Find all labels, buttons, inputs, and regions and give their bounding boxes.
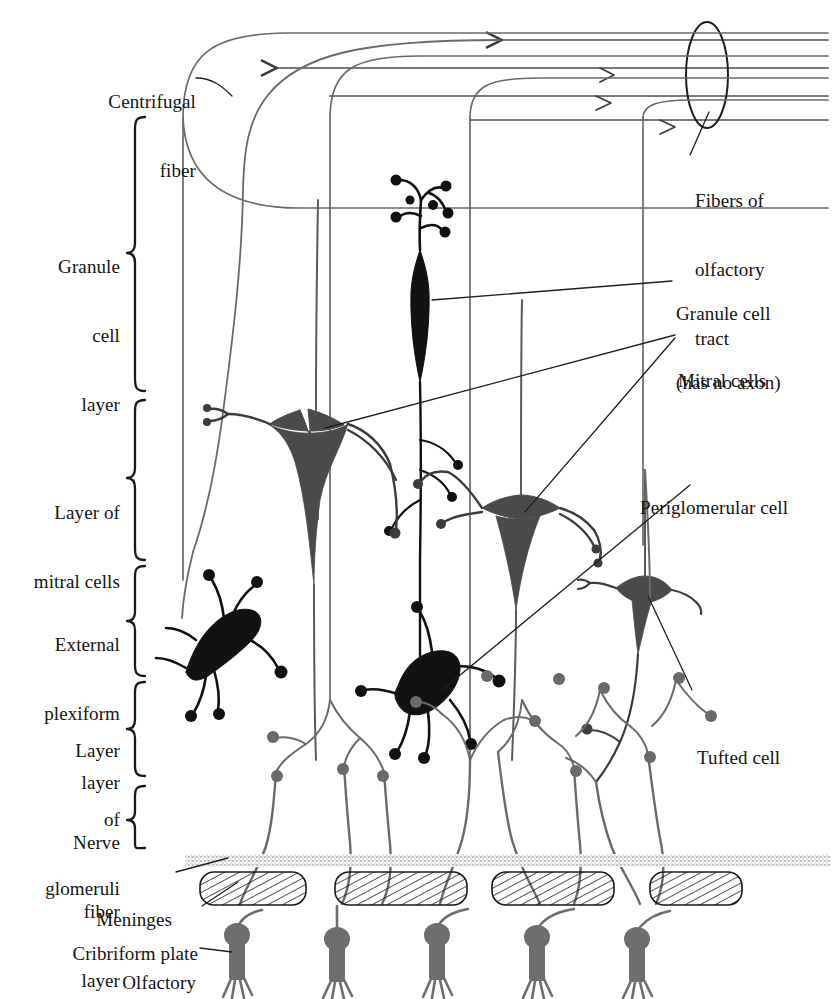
onc-3: [423, 923, 452, 998]
layer-label-layer-of-mitral-cells-line1: Layer of: [0, 501, 120, 524]
callout-centrifugal-fiber-line1: Centrifugal: [0, 90, 196, 113]
onc-5: [623, 927, 652, 999]
leader-onc: [200, 948, 232, 952]
callout-onc-line1: Olfactory: [0, 971, 196, 994]
onc-1: [223, 923, 252, 998]
callout-centrifugal-fiber-line2: fiber: [0, 159, 196, 182]
onc-axons: [240, 906, 670, 927]
cribriform-segment-4: [650, 872, 742, 905]
callout-tufted-cell: Tufted cell: [697, 700, 827, 815]
brace-layer-of-mitral-cells: [127, 400, 145, 560]
callout-mitral-cells-text: Mitral cells: [678, 369, 828, 392]
callout-tufted-cell-text: Tufted cell: [697, 746, 827, 769]
layer-label-granule-cell-layer-line2: cell: [0, 324, 120, 347]
mitral-cell-1: [203, 200, 401, 760]
callout-periglomerular-cell-text: Periglomerular cell: [640, 496, 832, 519]
layer-label-external-plexiform-layer-line1: External: [0, 633, 120, 656]
callout-periglomerular-cell: Periglomerular cell: [640, 450, 832, 565]
brace-nerve-fiber-layer: [127, 786, 145, 848]
callout-tract-line1: Fibers of: [695, 189, 832, 212]
layer-label-granule-cell-layer: Granule cell layer: [0, 209, 120, 462]
callout-mitral-cells: Mitral cells: [678, 323, 828, 438]
callout-granule-cell-line1: Granule cell: [676, 302, 832, 325]
granule-cell-1: [384, 175, 463, 669]
leader-lines: [176, 78, 709, 952]
callout-olfactory-neurosensory-cell: Olfactory neurosensory cell: [0, 925, 196, 999]
leader-mitral-1: [325, 335, 675, 428]
meninges-band: [185, 854, 830, 867]
onc-2: [323, 927, 352, 999]
layer-label-layer-of-glomeruli-line1: Layer: [0, 739, 120, 762]
olfactory-neurosensory-cells: [223, 923, 652, 999]
onc-4: [523, 925, 552, 999]
callout-centrifugal-fiber: Centrifugal fiber: [0, 44, 196, 228]
brace-external-plexiform-layer: [127, 566, 145, 676]
leader-tufted: [648, 596, 692, 690]
olfactory-tract-section-ellipse: [686, 22, 728, 128]
cribriform-segment-3: [492, 872, 614, 905]
leader-granule-cell: [432, 281, 672, 300]
olfactory-bulb-diagram: Granule cell layer Layer of mitral cells…: [0, 0, 832, 999]
brace-layer-of-glomeruli: [127, 682, 145, 776]
cribriform-plate: [200, 872, 742, 905]
layer-label-granule-cell-layer-line1: Granule: [0, 255, 120, 278]
leader-centrifugal: [196, 78, 232, 96]
periglomerular-cell-1: [156, 569, 288, 722]
layer-label-nerve-fiber-layer-line1: Nerve: [0, 831, 120, 854]
layer-label-granule-cell-layer-line3: layer: [0, 393, 120, 416]
centrifugal-fiber-path: [182, 40, 500, 618]
cribriform-segment-2: [335, 872, 467, 905]
olfactory-tract-fibers: [275, 40, 828, 134]
cribriform-segment-1: [200, 872, 306, 905]
